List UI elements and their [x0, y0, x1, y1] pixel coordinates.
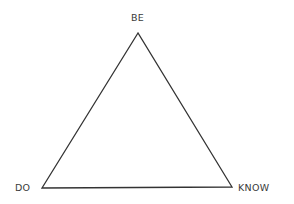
label-do: DO: [15, 183, 30, 193]
label-know: KNOW: [238, 183, 269, 193]
triangle-shape: [0, 0, 294, 204]
label-be: BE: [131, 13, 144, 23]
triangle-outline: [42, 33, 232, 188]
triangle-diagram: BE DO KNOW: [0, 0, 294, 204]
